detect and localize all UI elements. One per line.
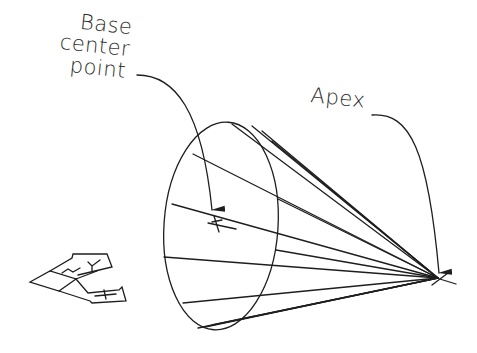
base-center-leader: [137, 75, 212, 210]
apex-label: Apex: [310, 84, 367, 112]
base-center-point-label: Base center point: [47, 8, 133, 82]
cone-generator-lines: [164, 124, 438, 328]
ucs-icon: [30, 254, 126, 303]
cone-diagram: Base center point Apex: [0, 0, 477, 353]
